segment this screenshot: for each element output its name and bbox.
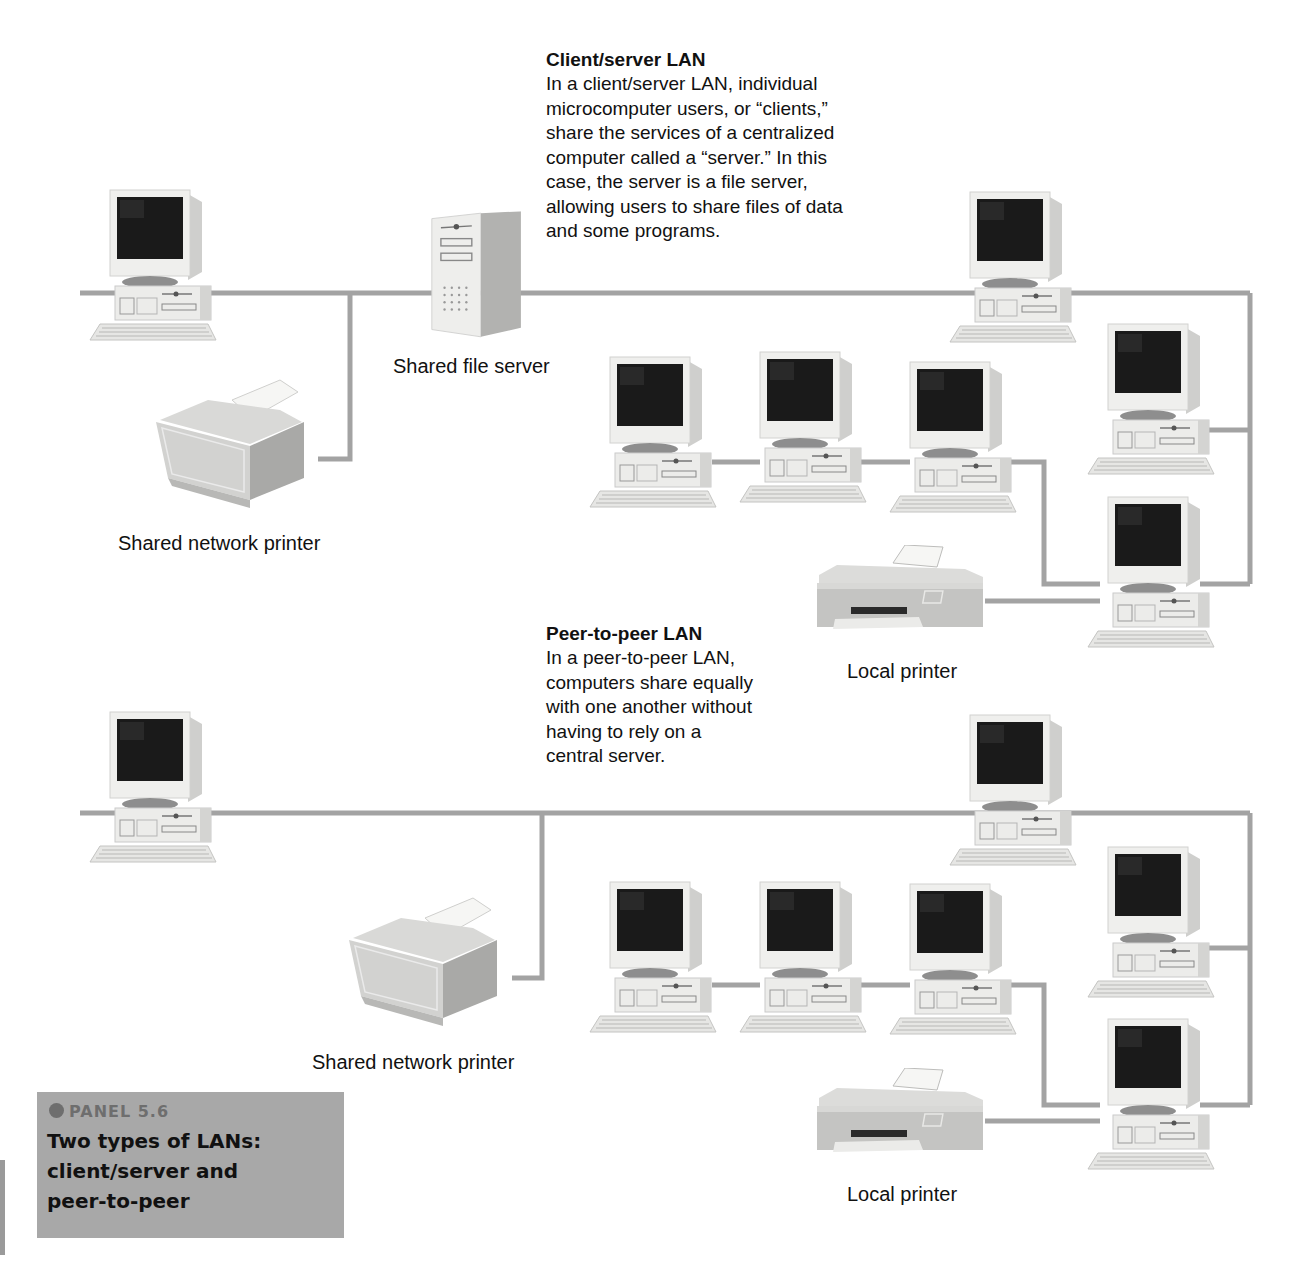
panel-title-line: Two types of LANs: [47,1126,261,1156]
panel-title-line: client/server and [47,1156,261,1186]
peer-to-peer-caption: Peer-to-peer LAN In a peer-to-peer LAN, … [546,622,826,769]
peer-computer-icon [80,710,220,870]
description-line: central server. [546,744,826,769]
panel-caption-box: PANEL 5.6 Two types of LANs: client/serv… [37,1092,344,1238]
peer-computer-icon [1078,845,1218,1005]
bullet-dot-icon [49,1103,64,1118]
panel-title-line: peer-to-peer [47,1186,261,1216]
panel-number-text: PANEL 5.6 [69,1102,169,1121]
network-printer-label: Shared network printer [312,1051,514,1074]
peer-computer-icon [730,880,870,1040]
peer-computer-icon [1078,1017,1218,1177]
panel-title: Two types of LANs: client/server and pee… [47,1126,261,1216]
network-printer-icon [345,888,515,1028]
page-edge-bar [0,1160,5,1255]
local-printer-icon [815,1068,985,1158]
peer-computer-icon [580,880,720,1040]
peer-to-peer-title: Peer-to-peer LAN [546,622,826,646]
panel-number: PANEL 5.6 [49,1102,169,1121]
description-line: having to rely on a [546,720,826,745]
description-line: In a peer-to-peer LAN, [546,646,826,671]
peer-computer-icon [880,882,1020,1042]
description-line: with one another without [546,695,826,720]
peer-computer-icon [940,713,1080,873]
description-line: computers share equally [546,671,826,696]
local-printer-label: Local printer [847,1183,957,1206]
peer-to-peer-description: In a peer-to-peer LAN, computers share e… [546,646,826,769]
